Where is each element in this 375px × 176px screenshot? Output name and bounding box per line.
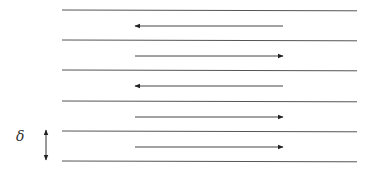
layer-boundary-line: [62, 161, 357, 162]
layer-boundary-line: [62, 40, 357, 41]
layer-boundary-line: [62, 131, 357, 132]
layer-flow-diagram: [0, 0, 375, 176]
layer-boundary-line: [62, 10, 357, 11]
layer-boundary-line: [62, 101, 357, 102]
thickness-label-delta: δ: [16, 128, 24, 144]
layer-boundary-line: [62, 70, 357, 71]
